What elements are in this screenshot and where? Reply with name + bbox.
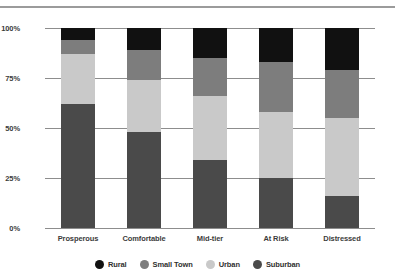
gridline: [45, 228, 375, 229]
bar-segment-suburban: [193, 160, 227, 228]
bar-segment-rural: [325, 28, 359, 70]
bar-segment-urban: [259, 112, 293, 178]
legend-label: Small Town: [153, 260, 193, 269]
bar-segment-rural: [259, 28, 293, 62]
legend-item-urban[interactable]: Urban: [206, 260, 240, 269]
bar-segment-urban: [127, 80, 161, 132]
bar-comfortable: [127, 28, 161, 228]
legend-swatch-icon: [253, 260, 262, 269]
legend-item-suburban[interactable]: Suburban: [253, 260, 300, 269]
chart-legend: RuralSmall TownUrbanSuburban: [0, 260, 395, 269]
bar-segment-urban: [325, 118, 359, 196]
bar-segment-small-town: [61, 40, 95, 54]
bar-segment-small-town: [127, 50, 161, 80]
legend-item-rural[interactable]: Rural: [95, 260, 127, 269]
legend-swatch-icon: [140, 260, 149, 269]
bar-segment-suburban: [127, 132, 161, 228]
bar-segment-rural: [193, 28, 227, 58]
legend-swatch-icon: [95, 260, 104, 269]
y-axis-tick-label: 25%: [0, 174, 20, 183]
plot-area: 0%25%50%75%100% ProsperousComfortableMid…: [45, 28, 375, 228]
bar-distressed: [325, 28, 359, 228]
top-divider: [0, 6, 395, 8]
bar-segment-suburban: [259, 178, 293, 228]
y-axis-tick-label: 75%: [0, 74, 20, 83]
legend-swatch-icon: [206, 260, 215, 269]
bar-segment-urban: [193, 96, 227, 160]
bar-segment-suburban: [325, 196, 359, 228]
x-axis-tick-label: Distressed: [297, 234, 387, 243]
y-axis-tick-label: 100%: [0, 24, 20, 33]
legend-label: Suburban: [266, 260, 300, 269]
bar-at-risk: [259, 28, 293, 228]
legend-item-small-town[interactable]: Small Town: [140, 260, 193, 269]
bar-prosperous: [61, 28, 95, 228]
legend-label: Rural: [108, 260, 127, 269]
bar-mid-tier: [193, 28, 227, 228]
bar-segment-small-town: [259, 62, 293, 112]
bar-segment-small-town: [193, 58, 227, 96]
y-axis-tick-label: 0%: [0, 224, 20, 233]
y-axis-tick-label: 50%: [0, 124, 20, 133]
stacked-bar-chart: 0%25%50%75%100% ProsperousComfortableMid…: [0, 0, 395, 280]
bar-segment-rural: [127, 28, 161, 50]
bar-segment-urban: [61, 54, 95, 104]
bar-segment-suburban: [61, 104, 95, 228]
legend-label: Urban: [219, 260, 240, 269]
bar-segment-small-town: [325, 70, 359, 118]
bar-segment-rural: [61, 28, 95, 40]
